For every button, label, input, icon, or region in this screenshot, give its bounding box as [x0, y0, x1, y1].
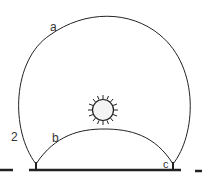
outer-arc-a	[19, 16, 191, 164]
label-c: c	[163, 158, 169, 170]
label-a: a	[50, 20, 57, 34]
label-2: 2	[11, 130, 18, 144]
sun-icon	[88, 95, 118, 125]
diagram-canvas: a b c 2	[0, 0, 202, 183]
label-b: b	[52, 131, 59, 145]
